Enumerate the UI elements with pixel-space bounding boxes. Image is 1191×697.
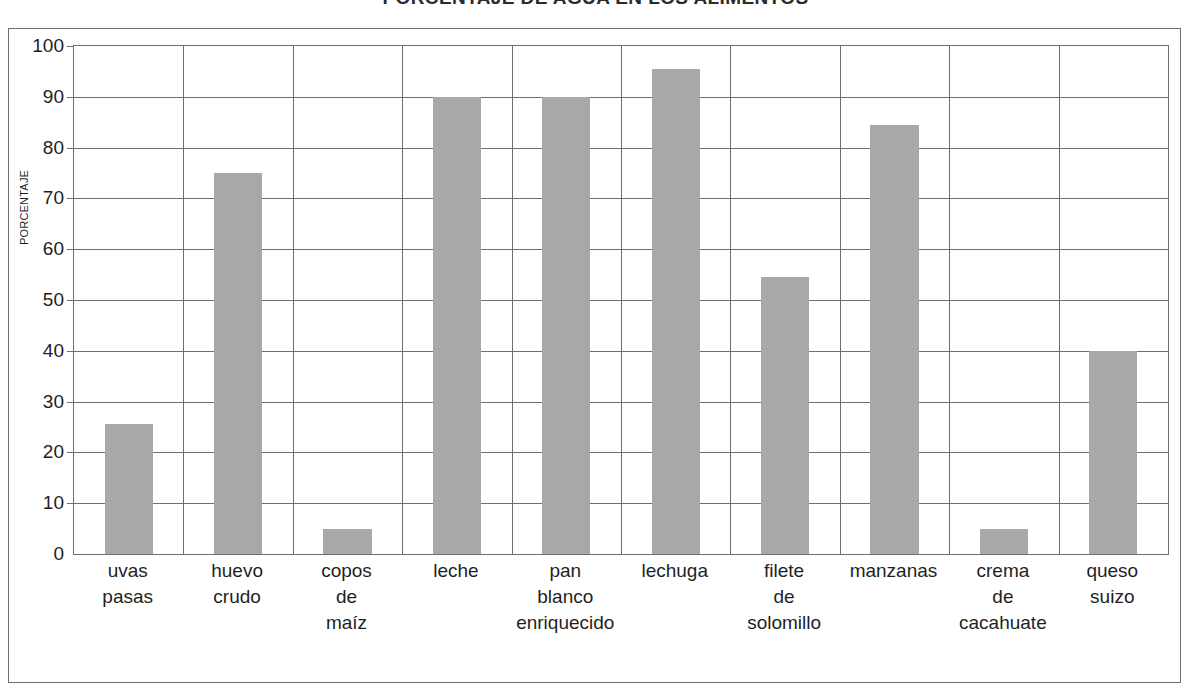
x-axis-label-line: cacahuate [948,610,1057,636]
y-tick-label: 0 [20,544,64,563]
y-axis-tick [67,503,74,504]
x-axis-label-line: de [729,584,838,610]
y-tick-label: 70 [20,188,64,207]
x-axis-label-line: crudo [182,584,291,610]
x-axis-label-line: crema [948,558,1057,584]
gridline-vertical [512,46,513,554]
x-axis-label: manzanas [839,558,948,584]
x-axis-label: leche [401,558,510,584]
x-axis-label: panblancoenriquecido [511,558,620,636]
x-axis-label-line: solomillo [729,610,838,636]
bar [323,529,371,554]
x-axis-label-line: filete [729,558,838,584]
y-tick-label: 40 [20,340,64,359]
bar [761,277,809,554]
bar [870,125,918,554]
x-axis-label: uvaspasas [73,558,182,610]
bar [542,97,590,554]
x-axis-label-line: enriquecido [511,610,620,636]
x-axis-label-line: uvas [73,558,182,584]
y-axis-tick [67,402,74,403]
x-axis-category-labels: uvaspasashuevocrudocoposdemaízlechepanbl… [73,558,1169,658]
x-axis-label-line: de [948,584,1057,610]
x-axis-label: huevocrudo [182,558,291,610]
x-axis-label-line: suizo [1058,584,1167,610]
x-axis-label: coposdemaíz [292,558,401,636]
bar [105,424,153,554]
x-axis-label-line: copos [292,558,401,584]
gridline-vertical [621,46,622,554]
y-tick-label: 30 [20,391,64,410]
x-axis-label: lechuga [620,558,729,584]
gridline-vertical [402,46,403,554]
x-axis-label-line: de [292,584,401,610]
bar [652,69,700,554]
bar [214,173,262,554]
x-axis-label-line: queso [1058,558,1167,584]
y-axis-tick [67,148,74,149]
y-axis-tick [67,300,74,301]
x-axis-label-line: pasas [73,584,182,610]
x-axis-label-line: pan [511,558,620,584]
gridline-vertical [730,46,731,554]
y-axis-tick [67,351,74,352]
y-axis-tick [67,249,74,250]
x-axis-label-line: manzanas [839,558,948,584]
x-axis-label: filetedesolomillo [729,558,838,636]
x-axis-label: quesosuizo [1058,558,1167,610]
y-tick-label: 60 [20,239,64,258]
gridline-vertical [293,46,294,554]
bar [433,97,481,554]
bar [980,529,1028,554]
x-axis-label: cremadecacahuate [948,558,1057,636]
gridline-vertical [949,46,950,554]
y-tick-label: 100 [20,36,64,55]
y-axis-tick-labels: 0102030405060708090100 [12,0,64,697]
x-axis-label-line: leche [401,558,510,584]
chart-title: PORCENTAJE DE AGUA EN LOS ALIMENTOS [0,0,1191,9]
y-axis-tick [67,198,74,199]
y-tick-label: 20 [20,442,64,461]
y-axis-tick [67,452,74,453]
x-axis-label-line: huevo [182,558,291,584]
y-tick-label: 10 [20,493,64,512]
gridline-vertical [840,46,841,554]
x-axis-label-line: blanco [511,584,620,610]
y-tick-label: 80 [20,137,64,156]
y-tick-label: 50 [20,290,64,309]
gridline-vertical [183,46,184,554]
gridline-vertical [1059,46,1060,554]
y-axis-tick [67,97,74,98]
x-axis-label-line: maíz [292,610,401,636]
plot-area [73,45,1169,555]
bar [1089,351,1137,554]
x-axis-label-line: lechuga [620,558,729,584]
y-tick-label: 90 [20,86,64,105]
y-axis-tick [67,46,74,47]
